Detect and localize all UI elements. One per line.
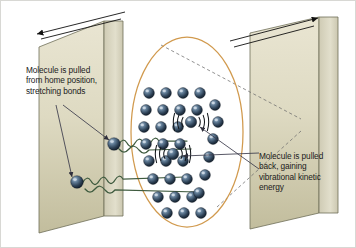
vibration-arc — [155, 145, 156, 162]
molecule — [175, 105, 186, 116]
molecule — [156, 122, 167, 133]
molecule — [141, 139, 152, 150]
molecule — [175, 139, 186, 150]
right-wall-edge — [319, 17, 338, 213]
molecule — [144, 156, 155, 167]
molecule — [153, 192, 164, 203]
molecule — [204, 152, 215, 163]
molecule — [158, 139, 169, 150]
pulled-molecule — [108, 138, 121, 151]
molecule — [158, 105, 169, 116]
molecule — [165, 174, 176, 185]
molecule — [144, 88, 155, 99]
left-wall-edge — [104, 21, 123, 216]
left-wall — [39, 21, 123, 233]
molecule — [170, 192, 181, 203]
vibrating-molecule — [185, 116, 196, 127]
molecule — [178, 156, 189, 167]
vibration-arc — [164, 149, 165, 158]
right-pointer-arrow-2 — [183, 153, 259, 156]
molecule-grid — [139, 88, 224, 219]
right-wall-face — [250, 17, 319, 229]
molecule — [162, 208, 173, 219]
vibrating-molecule — [167, 148, 178, 159]
vibration-arc — [182, 117, 183, 126]
vibration-arc — [160, 147, 161, 160]
vibration-arc — [173, 113, 174, 130]
vibration-arc — [185, 147, 186, 160]
left-wall-face — [39, 21, 104, 233]
vibration-arc — [199, 117, 200, 126]
pulled-molecule — [71, 176, 84, 189]
molecule — [194, 188, 205, 199]
molecule — [179, 208, 190, 219]
molecule — [148, 174, 159, 185]
molecule — [196, 208, 207, 219]
molecule — [192, 105, 203, 116]
diagram-canvas: Molecule is pulled from home position, s… — [0, 0, 356, 248]
vibration-arc — [181, 149, 182, 158]
molecule — [161, 88, 172, 99]
molecule — [200, 170, 211, 181]
molecule — [182, 174, 193, 185]
vibration-arc — [207, 113, 208, 130]
vibration-arc — [203, 115, 204, 128]
molecule — [139, 122, 150, 133]
molecule — [178, 88, 189, 99]
molecular-vibration-diagram — [1, 1, 356, 248]
vibration-arc — [189, 145, 190, 162]
molecule — [213, 117, 224, 128]
molecule — [210, 100, 221, 111]
molecule — [141, 105, 152, 116]
right-wall — [250, 17, 338, 229]
molecule — [195, 88, 206, 99]
